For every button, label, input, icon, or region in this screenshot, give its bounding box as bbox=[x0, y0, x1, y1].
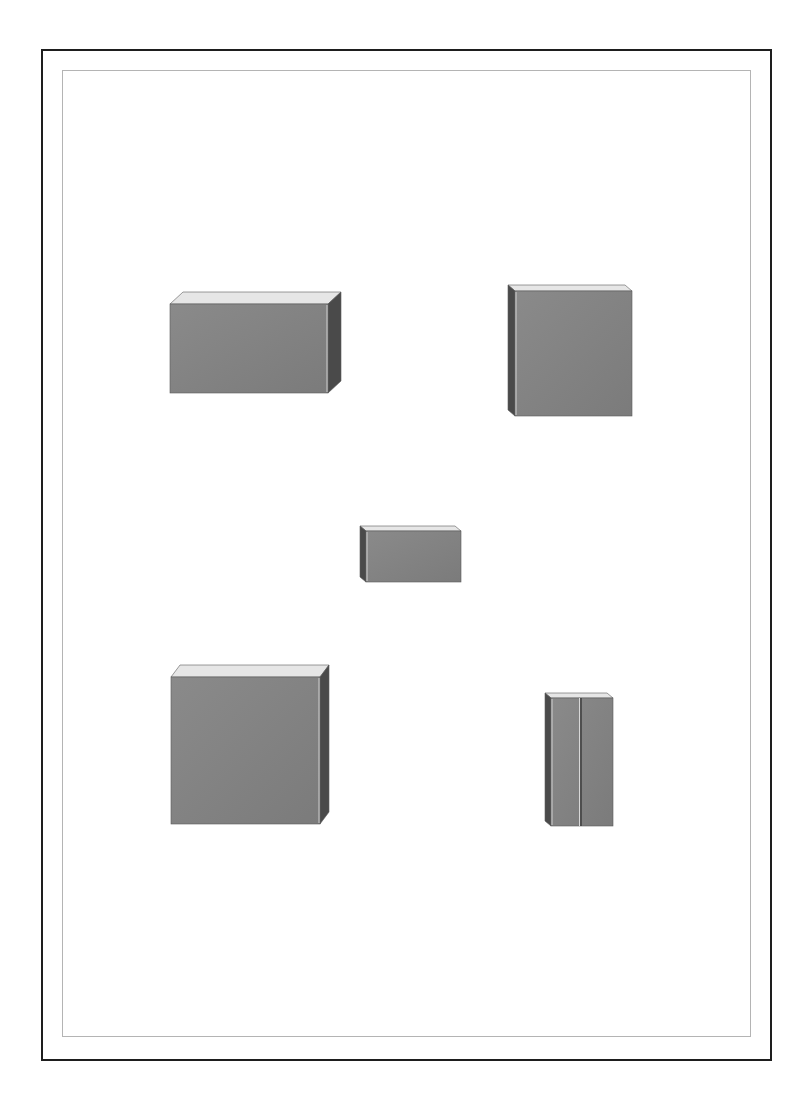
illustration-plate bbox=[0, 0, 810, 1097]
box-top-face bbox=[545, 693, 613, 698]
box-side-face bbox=[545, 693, 551, 826]
box-front-face bbox=[551, 698, 613, 826]
box-tall-box-bottom-right bbox=[0, 0, 810, 1097]
